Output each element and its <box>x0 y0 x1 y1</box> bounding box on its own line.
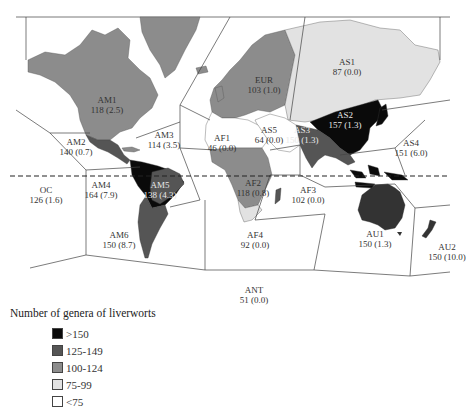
landmass-europe <box>210 30 295 118</box>
region-label-am6: AM6 150 (8.7) <box>103 230 136 250</box>
region-code: AM3 <box>148 130 181 140</box>
landmass-tasmania <box>397 232 402 236</box>
legend-item-125-149: 125-149 <box>52 342 103 359</box>
region-label-am4: AM4 164 (7.9) <box>85 180 118 200</box>
landmass-madagascar <box>275 188 281 204</box>
region-value: 64 (0.0) <box>255 135 284 145</box>
region-label-eur: EUR 103 (1.0) <box>248 75 281 95</box>
region-code: AM1 <box>91 95 124 105</box>
landmass-caribbean <box>122 147 140 152</box>
region-code: AM4 <box>85 180 118 190</box>
region-code: AS3 <box>286 125 319 135</box>
region-value: 51 (0.0) <box>240 295 269 305</box>
region-label-as2: AS2 157 (1.3) <box>329 110 362 130</box>
legend-swatch <box>52 379 63 390</box>
region-value: 150 (10.0) <box>428 252 466 262</box>
region-value: 103 (1.0) <box>248 85 281 95</box>
region-code: EUR <box>248 75 281 85</box>
legend-item-lt75: <75 <box>52 393 103 410</box>
region-code: AS1 <box>333 57 362 67</box>
region-code: AM6 <box>103 230 136 240</box>
region-code: AM2 <box>60 137 93 147</box>
legend-swatch <box>52 396 63 407</box>
region-code: AU2 <box>428 242 466 252</box>
region-label-af4: AF4 92 (0.0) <box>241 230 270 250</box>
region-value: 102 (0.0) <box>292 195 325 205</box>
region-code: AF4 <box>241 230 270 240</box>
legend: >150 125-149 100-124 75-99 <75 <box>52 325 103 410</box>
region-label-as5: AS5 64 (0.0) <box>255 125 284 145</box>
legend-item-100-124: 100-124 <box>52 359 103 376</box>
region-value: 92 (0.0) <box>241 240 270 250</box>
region-label-am3: AM3 114 (3.5) <box>148 130 181 150</box>
region-value: 118 (0.8) <box>237 188 270 198</box>
region-value: 87 (0.0) <box>333 67 362 77</box>
region-value: 150 (1.3) <box>286 135 319 145</box>
region-label-am5: AM5 138 (4.3) <box>144 180 177 200</box>
legend-label: 75-99 <box>66 379 92 391</box>
region-value: 150 (1.3) <box>359 239 392 249</box>
region-value: 126 (1.6) <box>30 195 63 205</box>
region-value: 157 (1.3) <box>329 120 362 130</box>
region-label-am2: AM2 140 (0.7) <box>60 137 93 157</box>
region-code: AS4 <box>395 138 428 148</box>
region-label-au1: AU1 150 (1.3) <box>359 229 392 249</box>
region-value: 150 (8.7) <box>103 240 136 250</box>
region-code: AF3 <box>292 185 325 195</box>
region-value: 118 (2.5) <box>91 105 124 115</box>
region-value: 151 (6.0) <box>395 148 428 158</box>
landmass-greenland <box>140 17 200 78</box>
region-label-as1: AS1 87 (0.0) <box>333 57 362 77</box>
legend-item-gt150: >150 <box>52 325 103 342</box>
landmass-new-zealand <box>422 220 436 238</box>
region-value: 114 (3.5) <box>148 140 181 150</box>
region-value: 46 (0.0) <box>208 143 237 153</box>
region-label-af3: AF3 102 (0.0) <box>292 185 325 205</box>
region-value: 140 (0.7) <box>60 147 93 157</box>
region-code: AF1 <box>208 133 237 143</box>
region-code: ANT <box>240 285 269 295</box>
region-code: AS2 <box>329 110 362 120</box>
region-label-af1: AF1 46 (0.0) <box>208 133 237 153</box>
region-code: AS5 <box>255 125 284 135</box>
legend-label: 125-149 <box>66 345 103 357</box>
legend-item-75-99: 75-99 <box>52 376 103 393</box>
region-value: 138 (4.3) <box>144 190 177 200</box>
region-label-ant: ANT 51 (0.0) <box>240 285 269 305</box>
region-label-am1: AM1 118 (2.5) <box>91 95 124 115</box>
legend-title: Number of genera of liverworts <box>10 307 156 319</box>
legend-swatch <box>52 362 63 373</box>
legend-label: 100-124 <box>66 362 103 374</box>
landmass-iceland <box>196 66 208 74</box>
legend-label: <75 <box>66 396 83 408</box>
region-label-as3: AS3 150 (1.3) <box>286 125 319 145</box>
region-label-as4: AS4 151 (6.0) <box>395 138 428 158</box>
region-code: AU1 <box>359 229 392 239</box>
legend-label: >150 <box>66 328 89 340</box>
legend-swatch <box>52 328 63 339</box>
landmass-north-america <box>28 28 158 140</box>
region-value: 164 (7.9) <box>85 190 118 200</box>
region-code: AM5 <box>144 180 177 190</box>
landmass-australia <box>358 184 405 230</box>
region-label-au2: AU2 150 (10.0) <box>428 242 466 262</box>
region-label-af2: AF2 118 (0.8) <box>237 178 270 198</box>
legend-swatch <box>52 345 63 356</box>
region-code: OC <box>30 185 63 195</box>
region-code: AF2 <box>237 178 270 188</box>
region-label-oc: OC 126 (1.6) <box>30 185 63 205</box>
